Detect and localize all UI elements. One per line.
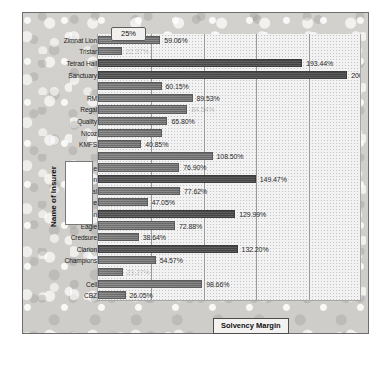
y-axis-label: Regal: [80, 106, 97, 113]
bar-row: 84.54%: [98, 105, 360, 113]
bar-value-label: 200%+: [351, 71, 361, 78]
y-axis-label: Sanctuary: [68, 71, 97, 78]
bar-row: 200%+: [98, 71, 360, 79]
bar-row: 22.37%: [98, 47, 360, 55]
bar-row: [98, 129, 360, 137]
bar-value-label: 26.05%: [130, 292, 153, 299]
bar-row: 193.44%: [98, 59, 360, 67]
bar: [98, 140, 141, 148]
y-axis-label: KMFS: [79, 141, 97, 148]
bar-value-label: 60.15%: [166, 83, 189, 90]
bar: [98, 47, 122, 55]
y-axis-label: CBZ: [84, 292, 97, 299]
bar: [98, 94, 193, 102]
bar-row: 26.05%: [98, 291, 360, 299]
bar-row: 77.62%: [98, 187, 360, 195]
bar: [98, 256, 156, 264]
y-axis-label: Nicoz: [81, 129, 97, 136]
bar: [98, 198, 148, 206]
bar-row: 89.53%: [98, 94, 360, 102]
bar-row: 54.57%: [98, 256, 360, 264]
y-axis-title: Name of Insurer: [49, 166, 58, 227]
bar-value-label: 149.47%: [260, 176, 287, 183]
bar-value-label: 65.80%: [171, 118, 194, 125]
bar-row: 129.99%: [98, 210, 360, 218]
bar-value-label: 22.37%: [126, 48, 149, 55]
bar: [98, 59, 302, 67]
bar-value-label: 193.44%: [306, 60, 333, 67]
bar: [98, 105, 187, 113]
bar-value-label: 38.64%: [143, 234, 166, 241]
bar-value-label: 54.57%: [160, 257, 183, 264]
bar-value-label: 129.99%: [239, 210, 266, 217]
bar-value-label: 23.27%: [127, 268, 150, 275]
bar-row: 47.05%: [98, 198, 360, 206]
bar: [98, 291, 126, 299]
bar: [98, 71, 347, 79]
bar: [98, 117, 167, 125]
threshold-callout-25-percent: 25%: [111, 27, 146, 41]
bar-row: 23.27%: [98, 268, 360, 276]
bar: [98, 268, 123, 276]
bar-row: 98.66%: [98, 280, 360, 288]
bar: [98, 187, 180, 195]
bar: [98, 82, 162, 90]
bar: [98, 245, 238, 253]
legend-solvency-margin: Solvency Margin: [213, 318, 289, 334]
bar: [98, 210, 235, 218]
y-axis-label: Credsure: [71, 234, 97, 241]
y-axis-label: RM: [87, 94, 97, 101]
bar: [98, 221, 175, 229]
y-axis-label: Tetrad Hail: [67, 60, 97, 67]
y-axis-label: Champions: [65, 257, 97, 264]
bar-row: 65.80%: [98, 117, 360, 125]
bar-value-label: 40.85%: [145, 141, 168, 148]
bar-value-label: 72.88%: [179, 222, 202, 229]
bar-value-label: 59.06%: [164, 36, 187, 43]
y-axis-label: Cell: [86, 280, 97, 287]
bar-row: 149.47%: [98, 175, 360, 183]
bar-value-label: 132.20%: [242, 245, 269, 252]
y-axis-label: Clarion: [77, 245, 97, 252]
plot-area: 59.06%22.37%193.44%200%+60.15%89.53%84.5…: [97, 34, 361, 301]
bar: [98, 163, 179, 171]
white-overlay-box: [65, 161, 93, 225]
bar-value-label: 89.53%: [197, 94, 220, 101]
bar: [98, 175, 256, 183]
y-axis-label: Tristar: [79, 48, 97, 55]
bar: [98, 280, 202, 288]
bar: [98, 233, 139, 241]
bar-series: 59.06%22.37%193.44%200%+60.15%89.53%84.5…: [98, 34, 360, 300]
y-axis-label: Zimnat Lion: [64, 36, 97, 43]
bar-value-label: 76.90%: [183, 164, 206, 171]
bar-value-label: 98.66%: [206, 280, 229, 287]
bar-row: 76.90%: [98, 163, 360, 171]
bar-value-label: 84.54%: [191, 106, 214, 113]
bar-value-label: 47.05%: [152, 199, 175, 206]
bar-row: 108.50%: [98, 152, 360, 160]
bar-row: 72.88%: [98, 221, 360, 229]
bar-row: 60.15%: [98, 82, 360, 90]
bar-value-label: 77.62%: [184, 187, 207, 194]
bar-row: 38.64%: [98, 233, 360, 241]
y-axis-label: Quality: [77, 118, 97, 125]
bar: [98, 152, 213, 160]
bar-row: 40.85%: [98, 140, 360, 148]
chart-frame: 59.06%22.37%193.44%200%+60.15%89.53%84.5…: [22, 12, 369, 334]
bar-row: 132.20%: [98, 245, 360, 253]
bar-value-label: 108.50%: [217, 152, 244, 159]
bar: [98, 129, 162, 137]
